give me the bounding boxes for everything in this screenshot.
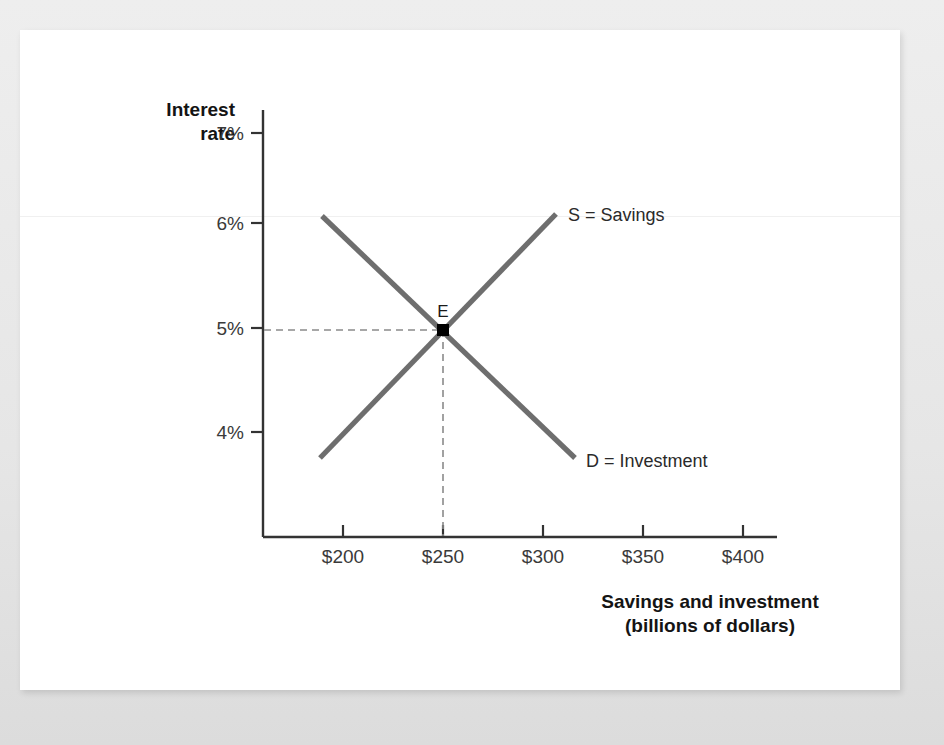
y-axis-title-line1: Interest [166, 99, 235, 120]
x-tick-label-200: $200 [322, 546, 364, 567]
y-tick-label-5: 5% [217, 318, 245, 339]
x-tick-label-350: $350 [622, 546, 664, 567]
page-background: Interest rate 7% 6% 5% 4% $200 $250 [0, 0, 944, 745]
x-tick-label-300: $300 [522, 546, 564, 567]
y-tick-label-6: 6% [217, 213, 245, 234]
y-tick-label-7: 7% [217, 123, 245, 144]
figure-card: Interest rate 7% 6% 5% 4% $200 $250 [20, 30, 900, 690]
x-axis-title-line1: Savings and investment [601, 591, 819, 612]
supply-demand-chart: Interest rate 7% 6% 5% 4% $200 $250 [20, 30, 900, 690]
x-tick-label-250: $250 [422, 546, 464, 567]
supply-curve-label: S = Savings [568, 205, 665, 225]
equilibrium-point-label: E [437, 302, 448, 321]
equilibrium-point-marker [437, 324, 449, 336]
x-axis-title-line2: (billions of dollars) [625, 615, 795, 636]
x-tick-label-400: $400 [722, 546, 764, 567]
demand-curve [322, 216, 575, 458]
demand-curve-label: D = Investment [586, 451, 708, 471]
y-tick-label-4: 4% [217, 422, 245, 443]
